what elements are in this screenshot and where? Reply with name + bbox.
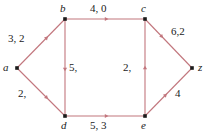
node-label-d: d: [61, 120, 67, 131]
graph-node-b[interactable]: [63, 17, 67, 21]
edge-direction-arrow-b-d: [63, 68, 67, 72]
graph-canvas: [0, 0, 208, 135]
edge-label-d-e: 5, 3: [90, 120, 107, 131]
node-label-z: z: [198, 62, 202, 73]
edge-direction-arrow-d-e: [105, 114, 109, 118]
edge-direction-arrow-e-c: [143, 66, 147, 70]
graph-node-z[interactable]: [190, 66, 194, 70]
graph-node-e[interactable]: [143, 114, 147, 118]
node-label-b: b: [60, 3, 66, 14]
edge-label-b-c: 4, 0: [90, 3, 107, 14]
flow-network-figure: abcdez3, 22,4, 05,5, 32,6,24: [0, 0, 208, 135]
edge-label-a-d: 2,: [18, 88, 26, 99]
edge-label-c-z: 6,2: [171, 26, 185, 37]
node-label-c: c: [141, 3, 146, 14]
edge-label-a-b: 3, 2: [8, 33, 25, 44]
edge-label-e-z: 4: [175, 88, 181, 99]
graph-node-a[interactable]: [15, 66, 19, 70]
edge-label-b-d: 5,: [69, 62, 77, 73]
node-label-a: a: [3, 62, 9, 73]
graph-edge-c-z: [145, 19, 192, 68]
edge-direction-arrow-b-c: [105, 17, 109, 21]
graph-node-c[interactable]: [143, 17, 147, 21]
graph-node-d[interactable]: [63, 114, 67, 118]
node-label-e: e: [141, 120, 146, 131]
edge-label-e-c: 2,: [123, 62, 131, 73]
graph-edge-e-z: [145, 68, 192, 116]
